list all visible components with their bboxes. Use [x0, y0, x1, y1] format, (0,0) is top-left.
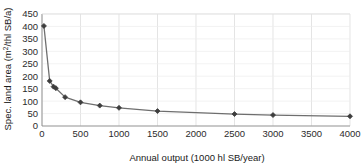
x-tick-label: 3500	[301, 128, 322, 139]
x-tick-label: 3000	[262, 128, 283, 139]
data-point-marker	[78, 100, 83, 105]
data-point-marker	[117, 105, 122, 110]
series-line-path	[44, 26, 350, 116]
data-series-line	[44, 26, 350, 116]
y-tick-label: 250	[22, 58, 38, 69]
y-tick-label: 150	[22, 83, 38, 94]
x-tick-label: 0	[39, 128, 44, 139]
y-tick-label: 50	[27, 108, 38, 119]
x-axis-tick-labels: 05001000150020002500300035004000	[39, 128, 360, 139]
svg-text:Spec. land area (m2/thl SB/a): Spec. land area (m2/thl SB/a)	[2, 8, 14, 131]
x-tick-label: 4000	[339, 128, 360, 139]
y-tick-label: 450	[22, 8, 38, 19]
x-tick-label: 2000	[185, 128, 206, 139]
y-tick-label: 100	[22, 96, 38, 107]
y-axis-tick-labels: 050100150200250300350400450	[22, 8, 38, 131]
line-chart-svg: 05001000150020002500300035004000 0501001…	[0, 0, 361, 167]
data-point-marker	[232, 112, 237, 117]
x-tick-label: 1500	[147, 128, 168, 139]
vertical-gridlines	[42, 14, 350, 126]
data-point-marker	[348, 114, 353, 119]
data-point-marker	[155, 109, 160, 114]
y-tick-label: 300	[22, 46, 38, 57]
data-series-markers	[41, 23, 352, 118]
y-tick-label: 400	[22, 21, 38, 32]
y-tick-label: 350	[22, 33, 38, 44]
chart-figure: 05001000150020002500300035004000 0501001…	[0, 0, 361, 167]
x-tick-label: 500	[73, 128, 89, 139]
data-point-marker	[97, 103, 102, 108]
svg-text:Annual output (1000 hl SB/year: Annual output (1000 hl SB/year)	[129, 152, 264, 163]
x-tick-label: 1000	[108, 128, 129, 139]
x-axis-title: Annual output (1000 hl SB/year)	[129, 152, 264, 163]
x-tick-label: 2500	[224, 128, 245, 139]
y-tick-label: 200	[22, 71, 38, 82]
y-axis-title: Spec. land area (m2/thl SB/a)	[2, 8, 14, 131]
y-tick-label: 0	[33, 120, 38, 131]
